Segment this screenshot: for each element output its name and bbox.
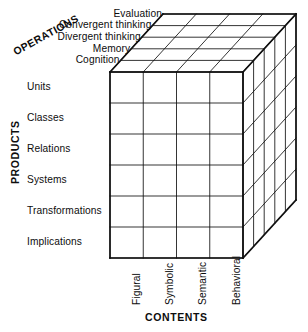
product-label-transformations: Transformations — [27, 206, 102, 216]
product-label-implications: Implications — [27, 237, 82, 247]
operation-label-memory: Memory — [93, 44, 130, 54]
axis-title-products: PRODUCTS — [10, 120, 21, 184]
product-label-classes: Classes — [27, 113, 64, 123]
soi-cube-graphic — [0, 0, 308, 332]
content-label-figural: Figural — [132, 273, 142, 305]
content-label-behavioral: Behavioral — [232, 256, 242, 305]
axis-title-contents: CONTENTS — [145, 312, 208, 323]
content-label-symbolic: Symbolic — [165, 263, 175, 305]
operation-label-divergent-thinking: Divergent thinking — [57, 32, 140, 42]
product-label-units: Units — [27, 82, 51, 92]
content-label-semantic: Semantic — [198, 262, 208, 305]
structure-of-intellect-figure: Evaluation Convergent thinking Divergent… — [0, 0, 308, 332]
product-label-relations: Relations — [27, 144, 70, 154]
operation-label-cognition: Cognition — [76, 55, 120, 65]
product-label-systems: Systems — [27, 175, 67, 185]
operation-label-evaluation: Evaluation — [113, 9, 162, 19]
